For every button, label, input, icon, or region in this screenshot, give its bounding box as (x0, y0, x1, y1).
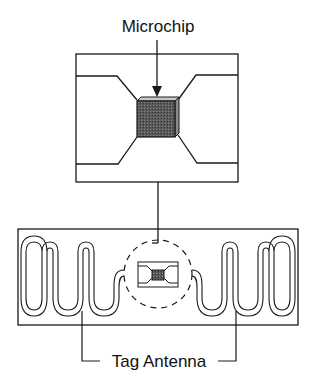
microchip-arrow (152, 40, 162, 97)
antenna-right (192, 236, 295, 316)
microchip-icon (137, 97, 179, 137)
rfid-tag-diagram: Microchip (0, 0, 316, 382)
microchip-label: Microchip (122, 17, 195, 36)
antenna-left (21, 236, 124, 316)
chip-module-small (138, 262, 178, 287)
tag-antenna-label: Tag Antenna (112, 352, 207, 371)
